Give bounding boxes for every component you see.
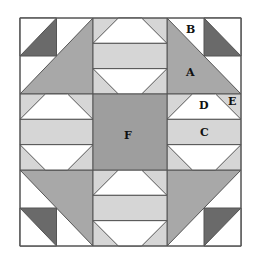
label-b: B <box>186 23 195 36</box>
label-a: A <box>185 66 195 79</box>
patch-c-top <box>93 43 167 68</box>
patch-c-bottom <box>93 195 167 220</box>
quilt-block-diagram: B A D E C F <box>0 0 254 263</box>
label-c: C <box>200 126 209 139</box>
label-e: E <box>228 95 236 108</box>
label-f: F <box>124 129 132 142</box>
label-d: D <box>199 99 209 112</box>
patch-c-left <box>20 119 93 144</box>
